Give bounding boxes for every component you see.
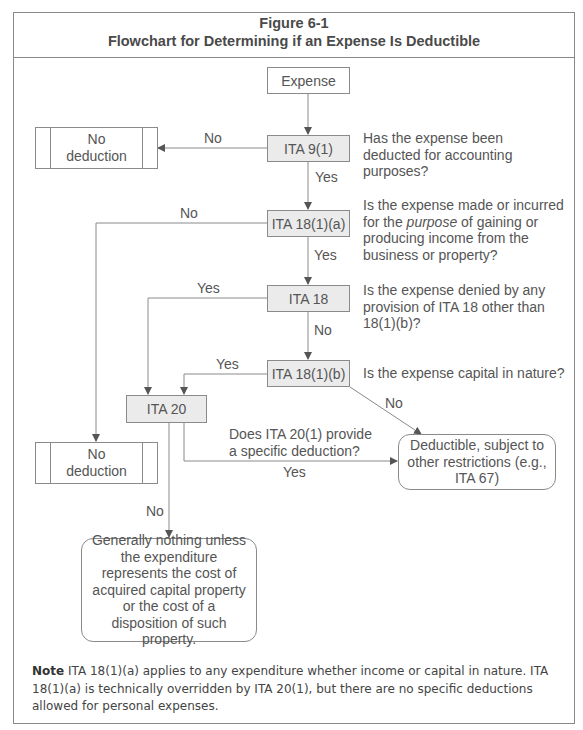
node-expense: Expense bbox=[267, 67, 350, 94]
node-ita-20: ITA 20 bbox=[126, 395, 207, 423]
terminal-bar-right bbox=[142, 443, 143, 483]
edge-label-ita-18-1-b-yes: Yes bbox=[216, 356, 239, 372]
question-ita-18: Is the expense denied by any provision o… bbox=[363, 282, 563, 332]
node-ita-18: ITA 18 bbox=[267, 285, 350, 312]
terminal-label: No deduction bbox=[51, 443, 142, 483]
edge-label-ita-18-1-a-yes: Yes bbox=[314, 247, 337, 263]
question-ita-20-1: Does ITA 20(1) provide a specific deduct… bbox=[229, 426, 379, 459]
question-emphasis: purpose bbox=[407, 214, 458, 230]
edge-label-ita-18-no: No bbox=[314, 322, 332, 338]
node-ita-18-1-b: ITA 18(1)(b) bbox=[267, 360, 350, 387]
edge-label-ita-18-1-a-no: No bbox=[180, 205, 198, 221]
terminal-no-deduction-2: No deduction bbox=[35, 442, 158, 484]
edge-label-ita-18-yes: Yes bbox=[197, 280, 220, 296]
outcome-deductible: Deductible, subject to other restriction… bbox=[398, 434, 556, 490]
node-ita-18-1-a: ITA 18(1)(a) bbox=[267, 210, 350, 237]
edge-label-ita-20-yes: Yes bbox=[283, 464, 306, 480]
terminal-label: No deduction bbox=[51, 128, 142, 168]
node-ita-9-1: ITA 9(1) bbox=[267, 135, 350, 162]
question-ita-9-1: Has the expense been deducted for accoun… bbox=[363, 130, 543, 180]
figure-note: Note ITA 18(1)(a) applies to any expendi… bbox=[32, 663, 557, 716]
question-ita-18-1-a: Is the expense made or incurred for the … bbox=[363, 197, 568, 263]
edge-label-ita-18-1-b-no: No bbox=[385, 395, 403, 411]
note-label: Note bbox=[32, 664, 64, 678]
terminal-no-deduction-1: No deduction bbox=[35, 127, 158, 169]
edge-label-ita-20-no: No bbox=[146, 503, 164, 519]
edge-label-ita-9-1-yes: Yes bbox=[315, 169, 338, 185]
note-text: ITA 18(1)(a) applies to any expenditure … bbox=[32, 664, 548, 713]
outcome-generally-nothing: Generally nothing unless the expenditure… bbox=[81, 538, 257, 642]
terminal-bar-right bbox=[142, 128, 143, 168]
edge-label-ita-9-1-no: No bbox=[204, 130, 222, 146]
question-ita-18-1-b: Is the expense capital in nature? bbox=[363, 365, 573, 382]
